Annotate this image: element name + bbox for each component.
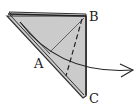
label-b: B <box>89 9 99 24</box>
label-a: A <box>33 56 44 71</box>
origami-diagram: B A C <box>0 0 135 106</box>
label-c: C <box>89 91 99 106</box>
